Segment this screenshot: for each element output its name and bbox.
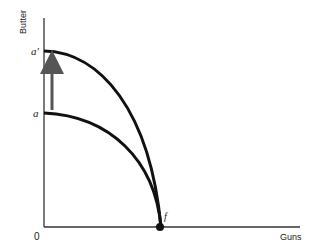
origin-label: 0 xyxy=(34,231,40,242)
ppf-chart: Butter Guns 0 a′ a f xyxy=(0,0,321,252)
f-label: f xyxy=(164,211,168,222)
shifted-ppf-curve xyxy=(44,51,161,227)
point-f xyxy=(156,223,164,231)
original-ppf-curve xyxy=(44,113,161,227)
a-label: a xyxy=(33,107,39,119)
y-axis-label: Butter xyxy=(18,10,28,34)
a-prime-label: a′ xyxy=(31,45,40,57)
x-axis-label: Guns xyxy=(280,232,302,242)
